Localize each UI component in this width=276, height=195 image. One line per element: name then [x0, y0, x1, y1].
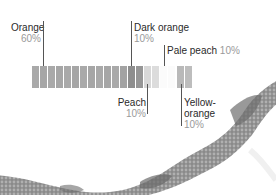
beaded-rope-photo: [0, 0, 276, 195]
